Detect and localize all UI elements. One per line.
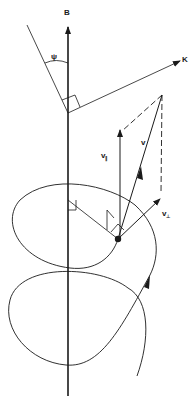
particle bbox=[115, 236, 121, 242]
right-angle-markers-particle bbox=[68, 200, 124, 239]
helix-diagram: B ψ K v∥ v v⊥ bbox=[0, 0, 191, 401]
wave-vector-arrow bbox=[68, 61, 180, 113]
psi-reference-line bbox=[27, 25, 68, 113]
v-perp-label: v⊥ bbox=[162, 209, 171, 219]
wave-vector-label: K bbox=[182, 55, 188, 64]
angle-psi-label: ψ bbox=[51, 52, 57, 61]
helical-trajectory bbox=[9, 184, 157, 376]
v-parallel-label: v∥ bbox=[101, 151, 108, 162]
field-label: B bbox=[64, 8, 70, 17]
velocity-label: v bbox=[141, 138, 146, 147]
trajectory-direction-arrow-icon bbox=[144, 275, 150, 289]
